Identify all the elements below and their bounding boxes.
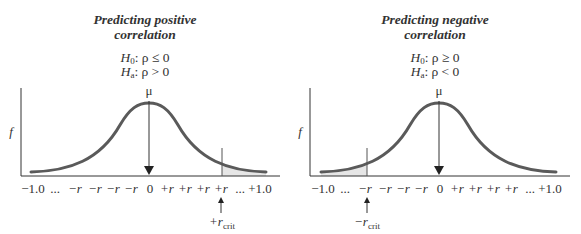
tick-label: −r <box>358 181 373 196</box>
critical-value-label: +rcrit <box>209 214 235 231</box>
crit-sub: crit <box>223 221 235 231</box>
x-tick-labels: −1.0 ... −r −r −r −r 0 +r +r +r +r ... +… <box>21 181 272 196</box>
critical-arrow-icon <box>218 197 224 203</box>
positive-correlation-panel: Predicting positive correlation H0: ρ ≤ … <box>0 0 290 234</box>
mean-label: μ <box>436 83 443 98</box>
negative-correlation-panel: Predicting negative correlation H0: ρ ≥ … <box>290 0 580 234</box>
tick-label: +r <box>196 181 211 196</box>
tick-label: +r <box>450 181 465 196</box>
tick-label: −r <box>106 181 121 196</box>
mean-arrow-icon <box>434 166 444 175</box>
tick-label: ... <box>235 181 245 196</box>
tick-label: −r <box>396 181 411 196</box>
tick-label: 0 <box>147 181 154 196</box>
tick-label: +1.0 <box>248 181 272 196</box>
tick-label: +r <box>178 181 193 196</box>
tick-label: −r <box>124 181 139 196</box>
tick-label: ... <box>340 181 350 196</box>
tick-label: −r <box>68 181 83 196</box>
tick-label: ... <box>525 181 535 196</box>
mean-label: μ <box>146 83 153 98</box>
crit-main: +r <box>209 214 224 229</box>
crit-sub: crit <box>368 221 380 231</box>
y-axis-label: f <box>298 124 304 139</box>
tick-label: +r <box>160 181 175 196</box>
mean-arrow-icon <box>144 166 154 175</box>
tick-label: −1.0 <box>311 181 335 196</box>
tick-label: +r <box>214 181 229 196</box>
tick-label: −r <box>88 181 103 196</box>
y-axis-label: f <box>9 124 15 139</box>
x-tick-labels: −1.0 ... −r −r −r −r 0 +r +r +r +r ... +… <box>311 181 562 196</box>
critical-value-label: −rcrit <box>354 214 380 231</box>
distribution-plot: μ f −1.0 ... −r −r −r −r 0 +r +r +r +r .… <box>290 0 581 234</box>
tick-label: −r <box>378 181 393 196</box>
critical-arrow-icon <box>364 197 370 203</box>
tick-label: +r <box>468 181 483 196</box>
tick-label: +r <box>504 181 519 196</box>
tick-label: 0 <box>437 181 444 196</box>
tick-label: +1.0 <box>538 181 562 196</box>
tick-label: ... <box>50 181 60 196</box>
tick-label: −1.0 <box>21 181 45 196</box>
crit-main: −r <box>354 214 369 229</box>
distribution-plot: μ f −1.0 ... −r −r −r −r 0 +r +r +r +r .… <box>0 0 290 234</box>
tick-label: +r <box>486 181 501 196</box>
tick-label: −r <box>414 181 429 196</box>
